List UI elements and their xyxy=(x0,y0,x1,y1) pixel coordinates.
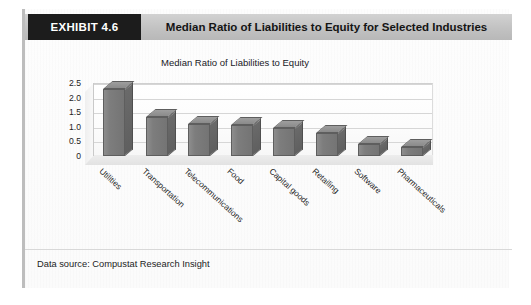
x-category-label: Utilities xyxy=(98,166,125,191)
exhibit-card: EXHIBIT 4.6 Median Ratio of Liabilities … xyxy=(22,9,509,288)
y-tick-label: 0 xyxy=(57,151,81,161)
bar-retailing xyxy=(316,133,338,156)
bar-side-face xyxy=(338,126,346,156)
bar-front-face xyxy=(358,144,380,156)
bar-telecommunications xyxy=(188,124,210,156)
bar-front-face xyxy=(103,89,125,156)
x-category-label: Transportation xyxy=(140,166,187,209)
y-tick-label: 2.0 xyxy=(57,93,81,103)
x-category-label: Capital goods xyxy=(268,166,313,208)
bar-front-face xyxy=(188,124,210,156)
bar-transportation xyxy=(146,117,168,156)
y-tick-label: 0.5 xyxy=(57,136,81,146)
plot-area xyxy=(85,83,433,165)
y-tick-label: 1.0 xyxy=(57,122,81,132)
bar-utilities xyxy=(103,89,125,156)
x-axis-category-labels: UtilitiesTransportationTelecommunication… xyxy=(85,166,445,241)
bar-capital-goods xyxy=(273,128,295,156)
bar-side-face xyxy=(253,119,261,156)
y-tick-label: 1.5 xyxy=(57,107,81,117)
bar-front-face xyxy=(401,147,423,156)
bar-front-face xyxy=(146,117,168,156)
bar-side-face xyxy=(125,82,133,156)
exhibit-number-tag: EXHIBIT 4.6 xyxy=(28,14,141,40)
bar-side-face xyxy=(168,110,176,156)
y-axis-tick-labels: 2.52.01.51.00.50 xyxy=(53,83,81,165)
exhibit-header-bar: EXHIBIT 4.6 Median Ratio of Liabilities … xyxy=(25,14,512,40)
bar-software xyxy=(358,144,380,156)
bar-food xyxy=(231,125,253,156)
bar-pharmaceuticals xyxy=(401,147,423,156)
bar-side-face xyxy=(295,122,303,156)
x-category-label: Software xyxy=(353,166,384,196)
bar-front-face xyxy=(316,133,338,156)
chart-container: Median Ratio of Liabilities to Equity 2.… xyxy=(25,40,512,245)
x-category-label: Food xyxy=(225,166,246,186)
bar-front-face xyxy=(273,128,295,156)
bar-side-face xyxy=(210,117,218,156)
x-category-label: Retailing xyxy=(310,166,341,195)
bar-front-face xyxy=(231,125,253,156)
data-source-note: Data source: Compustat Research Insight xyxy=(37,259,210,269)
chart-title: Median Ratio of Liabilities to Equity xyxy=(25,57,445,68)
footer-divider xyxy=(25,249,512,250)
exhibit-figure: EXHIBIT 4.6 Median Ratio of Liabilities … xyxy=(0,0,531,305)
bar-series xyxy=(93,83,433,165)
exhibit-title: Median Ratio of Liabilities to Equity fo… xyxy=(141,14,512,40)
y-tick-label: 2.5 xyxy=(57,78,81,88)
x-category-label: Pharmaceuticals xyxy=(395,166,448,215)
